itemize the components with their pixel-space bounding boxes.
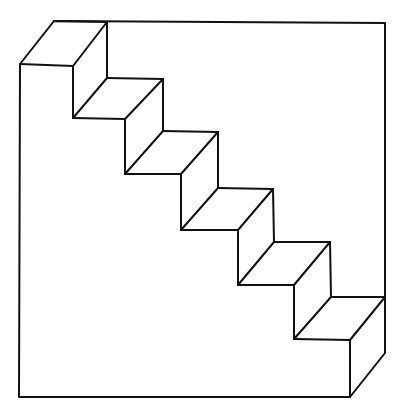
step-edge	[350, 297, 385, 340]
step-edge	[125, 131, 163, 174]
step-edge	[163, 131, 218, 132]
step-edge	[73, 78, 107, 118]
step-edge	[294, 242, 330, 285]
staircase-diagram	[0, 0, 401, 412]
step-edge	[73, 22, 107, 66]
step-edge	[181, 188, 218, 230]
step-edge	[218, 188, 273, 189]
step-edge	[20, 64, 73, 66]
step-edge	[238, 242, 274, 285]
staircase-steps	[20, 21, 385, 397]
step-edge	[125, 79, 163, 119]
step-edge	[330, 242, 331, 297]
step-edge	[294, 339, 350, 340]
step-edge	[273, 189, 274, 242]
step-edge	[73, 118, 125, 119]
step-edge	[54, 21, 107, 22]
step-edge	[107, 78, 163, 79]
step-edge	[294, 297, 331, 339]
step-edge	[238, 189, 273, 230]
step-edge	[181, 132, 218, 174]
